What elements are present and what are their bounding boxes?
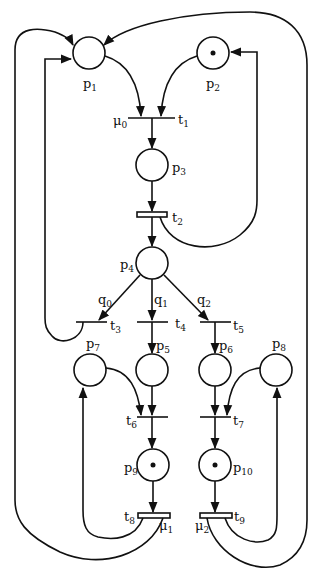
place-p6 <box>199 354 231 386</box>
label-t6: t6 <box>126 413 137 430</box>
label-q2: q2 <box>197 292 211 309</box>
label-p2: p2 <box>206 76 220 93</box>
place-p5 <box>136 354 168 386</box>
label-p5: p5 <box>156 338 170 355</box>
label-t3: t3 <box>110 318 121 335</box>
place-p3 <box>136 149 168 181</box>
label-p9: p9 <box>124 460 138 477</box>
token-p2 <box>211 51 216 56</box>
label-t7: t7 <box>233 413 244 430</box>
label-mu1: μ1 <box>159 518 173 535</box>
label-t2: t2 <box>172 210 183 227</box>
label-p6: p6 <box>219 338 233 355</box>
label-p7: p7 <box>86 336 100 353</box>
label-p1: p1 <box>83 76 97 93</box>
place-p1 <box>73 37 105 69</box>
label-t9: t9 <box>234 509 245 526</box>
label-t1: t1 <box>178 112 189 129</box>
label-p8: p8 <box>272 336 286 353</box>
place-p4 <box>136 247 168 279</box>
petri-net-diagram: p1 p2 p3 p4 p7 p5 p6 p8 p9 p10 μ0 t1 t2 … <box>0 0 322 574</box>
token-p10 <box>213 463 218 468</box>
label-t5: t5 <box>233 318 244 335</box>
place-p7 <box>74 354 106 386</box>
label-p10: p10 <box>233 460 253 477</box>
label-p3: p3 <box>172 160 186 177</box>
label-q0: q0 <box>98 292 112 309</box>
place-p8 <box>260 354 292 386</box>
transition-t2 <box>137 212 167 217</box>
label-mu0: μ0 <box>113 113 127 130</box>
label-q1: q1 <box>154 292 168 309</box>
token-p9 <box>151 463 156 468</box>
label-t8: t8 <box>124 509 135 526</box>
transition-t9 <box>200 513 232 518</box>
label-p4: p4 <box>120 257 134 274</box>
label-t4: t4 <box>175 316 186 333</box>
